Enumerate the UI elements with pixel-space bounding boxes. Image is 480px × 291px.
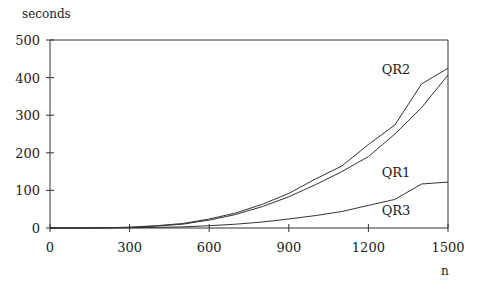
y-tick-label: 100 — [15, 183, 40, 198]
x-tick-label: 300 — [117, 240, 142, 255]
y-tick-label: 400 — [15, 71, 40, 86]
x-tick-label: 600 — [197, 240, 222, 255]
x-tick-label: 1200 — [352, 240, 385, 255]
x-tick-label: 900 — [276, 240, 301, 255]
series-label-qr1: QR1 — [382, 165, 411, 180]
y-tick-label: 300 — [15, 108, 40, 123]
line-chart: 0100200300400500030060090012001500 QR2QR… — [0, 0, 480, 291]
x-axis-label: n — [441, 264, 449, 278]
y-tick-label: 0 — [32, 221, 40, 236]
series-labels: QR2QR1QR3 — [382, 62, 411, 218]
y-tick-label: 500 — [15, 33, 40, 48]
series-label-qr3: QR3 — [382, 203, 411, 218]
x-tick-label: 1500 — [431, 240, 464, 255]
x-tick-label: 0 — [46, 240, 54, 255]
series-label-qr2: QR2 — [382, 62, 411, 77]
y-axis-label: seconds — [22, 7, 71, 21]
y-tick-label: 200 — [15, 146, 40, 161]
